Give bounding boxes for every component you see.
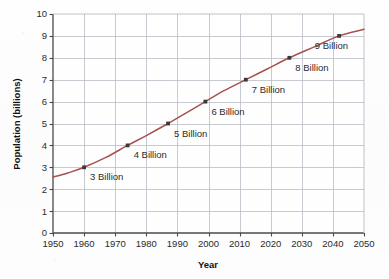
marker-6-billion [203,100,207,104]
label-7-billion: 7 Billion [252,84,285,95]
y-tick-label-8: 8 [42,52,47,63]
x-tick-label-2040: 2040 [322,238,343,249]
y-tick-label-5: 5 [42,118,47,129]
y-tick-label-10: 10 [36,8,47,19]
x-tick-label-2030: 2030 [291,238,312,249]
label-5-billion: 5 Billion [174,128,207,139]
y-axis-title: Population (billions) [11,78,22,169]
x-axis-tick-labels: 1950196019701980199020002010202020302040… [42,238,374,249]
chart-canvas: 012345678910 195019601970198019902000201… [0,0,389,279]
x-tick-label-1970: 1970 [105,238,126,249]
y-tick-label-0: 0 [42,227,47,238]
marker-5-billion [166,122,170,126]
marker-9-billion [337,34,341,38]
x-tick-label-2000: 2000 [198,238,219,249]
y-tick-label-3: 3 [42,162,47,173]
population-growth-chart: 012345678910 195019601970198019902000201… [0,0,389,279]
x-tick-label-1960: 1960 [74,238,95,249]
x-tick-label-2010: 2010 [229,238,250,249]
marker-7-billion [244,78,248,82]
x-axis-title: Year [198,259,218,270]
y-tick-label-1: 1 [42,206,47,217]
label-3-billion: 3 Billion [90,171,123,182]
y-tick-label-4: 4 [42,140,47,151]
x-tick-label-1950: 1950 [42,238,63,249]
x-tick-label-2050: 2050 [353,238,374,249]
label-4-billion: 4 Billion [134,149,167,160]
x-tick-label-1990: 1990 [167,238,188,249]
y-tick-label-6: 6 [42,96,47,107]
label-9-billion: 9 Billion [315,40,348,51]
label-6-billion: 6 Billion [211,106,244,117]
marker-8-billion [287,56,291,60]
x-tick-label-1980: 1980 [136,238,157,249]
y-tick-label-2: 2 [42,184,47,195]
y-axis-tick-labels: 012345678910 [36,8,47,238]
y-tick-label-7: 7 [42,74,47,85]
marker-3-billion [82,165,86,169]
x-tick-label-2020: 2020 [260,238,281,249]
label-8-billion: 8 Billion [295,62,328,73]
marker-4-billion [126,144,130,148]
y-tick-label-9: 9 [42,30,47,41]
